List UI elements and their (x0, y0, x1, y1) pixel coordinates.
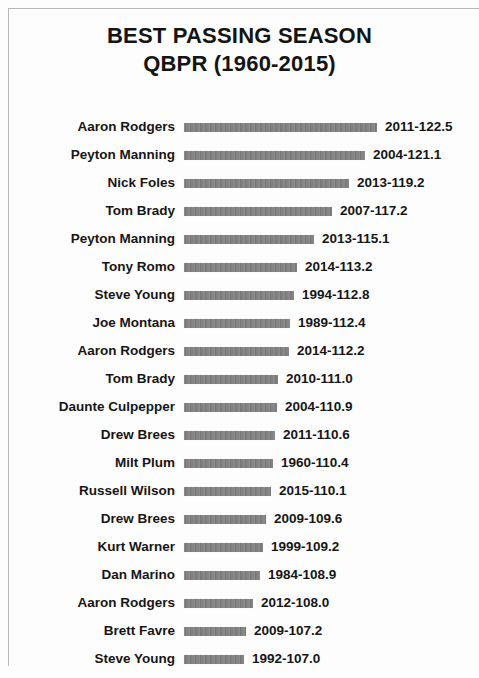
row-bar (184, 487, 271, 496)
row-player-name: Aaron Rodgers (0, 594, 175, 611)
row-bar (184, 515, 266, 524)
chart-row: Nick Foles2013-119.2 (0, 174, 479, 202)
row-value-label: 2013-115.1 (322, 230, 390, 247)
row-player-name: Aaron Rodgers (0, 118, 175, 135)
row-value-label: 2010-111.0 (286, 370, 353, 387)
row-value-label: 2004-121.1 (373, 146, 441, 163)
chart-row: Dan Marino1984-108.9 (0, 566, 479, 594)
row-player-name: Tom Brady (0, 370, 175, 387)
bar-chart-rows: Aaron Rodgers2011-122.5Peyton Manning200… (0, 118, 479, 678)
row-player-name: Joe Montana (0, 314, 175, 331)
chart-row: Tom Brady2007-117.2 (0, 202, 479, 230)
row-bar (184, 207, 332, 216)
row-value-label: 2013-119.2 (357, 174, 425, 191)
row-player-name: Kurt Warner (0, 538, 175, 555)
row-bar (184, 123, 377, 132)
row-bar (184, 291, 294, 300)
row-value-label: 2012-108.0 (261, 594, 329, 611)
chart-row: Brett Favre2009-107.2 (0, 622, 479, 650)
row-value-label: 2007-117.2 (340, 202, 408, 219)
chart-row: Tom Brady2010-111.0 (0, 370, 479, 398)
chart-row: Russell Wilson2015-110.1 (0, 482, 479, 510)
row-value-label: 1994-112.8 (302, 286, 370, 303)
row-bar (184, 627, 246, 636)
row-value-label: 1984-108.9 (268, 566, 336, 583)
row-player-name: Russell Wilson (0, 482, 175, 499)
chart-row: Peyton Manning2004-121.1 (0, 146, 479, 174)
chart-title: BEST PASSING SEASON QBPR (1960-2015) (0, 22, 479, 78)
row-bar (184, 319, 290, 328)
row-bar (184, 375, 278, 384)
chart-row: Drew Brees2009-109.6 (0, 510, 479, 538)
row-value-label: 2009-109.6 (274, 510, 342, 527)
row-value-label: 2004-110.9 (285, 398, 353, 415)
row-player-name: Daunte Culpepper (0, 398, 175, 415)
row-value-label: 1999-109.2 (271, 538, 339, 555)
row-value-label: 2011-110.6 (283, 426, 350, 443)
row-bar (184, 459, 273, 468)
row-player-name: Aaron Rodgers (0, 342, 175, 359)
row-value-label: 1989-112.4 (298, 314, 366, 331)
chart-row: Peyton Manning2013-115.1 (0, 230, 479, 258)
chart-row: Tony Romo2014-113.2 (0, 258, 479, 286)
row-player-name: Nick Foles (0, 174, 175, 191)
row-player-name: Steve Young (0, 650, 175, 667)
chart-row: Daunte Culpepper2004-110.9 (0, 398, 479, 426)
row-bar (184, 431, 275, 440)
row-player-name: Drew Brees (0, 426, 175, 443)
row-value-label: 2014-112.2 (297, 342, 365, 359)
row-bar (184, 599, 253, 608)
row-bar (184, 655, 244, 664)
row-player-name: Brett Favre (0, 622, 175, 639)
chart-row: Milt Plum1960-110.4 (0, 454, 479, 482)
row-value-label: 2015-110.1 (279, 482, 347, 499)
row-player-name: Peyton Manning (0, 230, 175, 247)
row-player-name: Drew Brees (0, 510, 175, 527)
row-value-label: 1960-110.4 (281, 454, 349, 471)
row-player-name: Tony Romo (0, 258, 175, 275)
row-bar (184, 543, 263, 552)
chart-row: Aaron Rodgers2012-108.0 (0, 594, 479, 622)
chart-title-line-1: BEST PASSING SEASON (0, 22, 479, 50)
row-bar (184, 571, 260, 580)
chart-row: Aaron Rodgers2011-122.5 (0, 118, 479, 146)
row-bar (184, 403, 277, 412)
row-value-label: 2014-113.2 (305, 258, 373, 275)
row-bar (184, 347, 289, 356)
chart-row: Aaron Rodgers2014-112.2 (0, 342, 479, 370)
chart-row: Joe Montana1989-112.4 (0, 314, 479, 342)
row-bar (184, 151, 365, 160)
row-value-label: 2011-122.5 (385, 118, 453, 135)
chart-row: Steve Young1992-107.0 (0, 650, 479, 678)
row-player-name: Milt Plum (0, 454, 175, 471)
chart-title-line-2: QBPR (1960-2015) (0, 50, 479, 78)
row-bar (184, 179, 349, 188)
row-value-label: 2009-107.2 (254, 622, 322, 639)
row-player-name: Tom Brady (0, 202, 175, 219)
row-bar (184, 263, 297, 272)
page-border-top (8, 8, 479, 9)
row-player-name: Steve Young (0, 286, 175, 303)
row-bar (184, 235, 314, 244)
row-player-name: Dan Marino (0, 566, 175, 583)
row-player-name: Peyton Manning (0, 146, 175, 163)
row-value-label: 1992-107.0 (252, 650, 320, 667)
chart-row: Drew Brees2011-110.6 (0, 426, 479, 454)
scanned-page: BEST PASSING SEASON QBPR (1960-2015) Aar… (0, 0, 479, 678)
chart-row: Steve Young1994-112.8 (0, 286, 479, 314)
chart-row: Kurt Warner1999-109.2 (0, 538, 479, 566)
